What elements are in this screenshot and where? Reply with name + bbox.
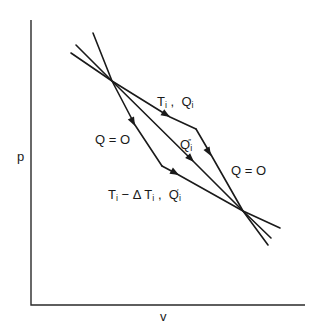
upper-isotherm-label: Ti , Qi	[157, 95, 194, 110]
lower-isotherm-label: Ti − Δ Ti , Qi′	[108, 188, 178, 203]
right-adiabat-line	[196, 129, 268, 245]
label-operator: − Δ	[118, 187, 144, 202]
label-superscript: ″	[188, 137, 191, 146]
label-separator: ,	[167, 94, 181, 109]
arrow-left-adiabat-icon	[128, 116, 138, 127]
label-separator: ,	[154, 187, 168, 202]
y-axis-label: p	[17, 150, 24, 163]
x-axis-label: v	[160, 310, 167, 323]
label-text: T	[157, 94, 165, 109]
arrow-lower-isotherm-icon	[169, 168, 180, 179]
right-adiabat-label: Q = O	[231, 164, 266, 177]
middle-path-label: Qi″	[180, 138, 191, 153]
pv-diagram	[0, 0, 318, 330]
arrow-upper-isotherm-icon	[161, 109, 172, 120]
label-subscript: i	[179, 193, 181, 203]
label-subscript: i	[192, 100, 194, 110]
label-text: T	[108, 187, 116, 202]
left-adiabat-label: Q = O	[95, 133, 130, 146]
label-text: Q	[181, 94, 191, 109]
